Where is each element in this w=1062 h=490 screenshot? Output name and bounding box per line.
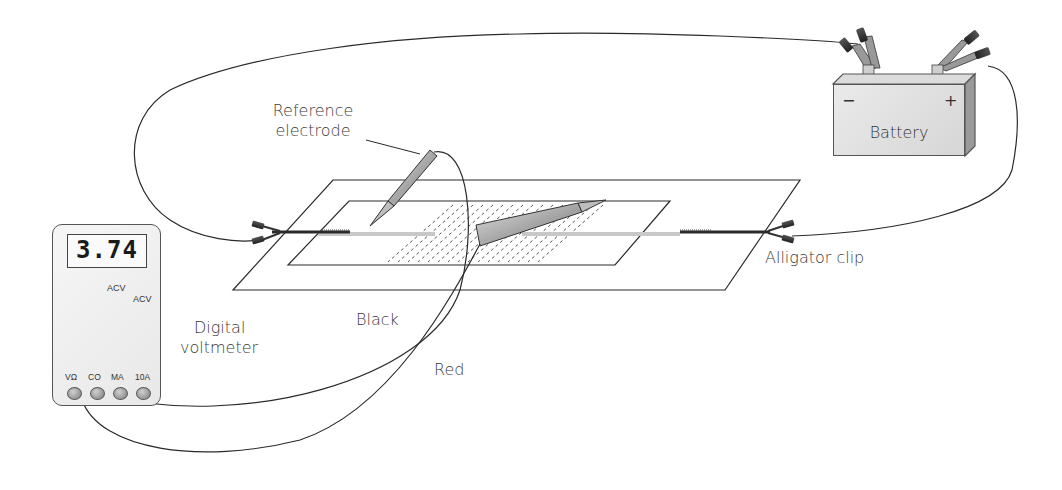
battery-positive-sign: + [944,91,957,110]
port-jack-ma [113,387,128,400]
voltmeter-display: 3.74 [67,234,147,268]
digital-voltmeter-label-line2: voltmeter [180,338,258,358]
port-jack-10a [136,387,151,400]
port-label-vohm: VΩ [65,372,77,382]
battery-negative-sign: − [842,91,855,110]
port-label-10a: 10A [135,372,150,382]
right-alligator-clip-icon [768,220,795,244]
dial-label-acv-1: ACV [107,283,126,293]
black-lead-label: Black [356,310,399,330]
port-label-ma: MA [111,372,124,382]
digital-voltmeter: 3.74 ACV ACV VΩ CO MA 10A [52,224,161,406]
reference-electrode-label-line1: Reference [258,101,368,121]
battery-top-face [833,74,975,84]
port-label-co: CO [88,372,101,382]
reference-electrode-leader [366,140,420,154]
alligator-clip-label: Alligator clip [765,248,864,268]
battery: − + Battery [833,84,965,156]
port-jack-co [90,387,105,400]
digital-voltmeter-label: Digital voltmeter [180,318,258,358]
red-lead-label: Red [434,360,464,380]
battery-negative-clips-icon [838,27,880,75]
dial-label-acv-2: ACV [133,294,152,304]
battery-positive-clips-icon [932,29,991,75]
battery-label: Battery [834,123,964,142]
equipotential-apparatus-diagram: 3.74 ACV ACV VΩ CO MA 10A − + Battery Re… [0,0,1062,490]
reference-electrode-label: Reference electrode [258,101,368,141]
digital-voltmeter-label-line1: Digital [180,318,258,338]
battery-side-face [965,74,975,156]
reference-electrode-label-line2: electrode [258,121,368,141]
port-jack-vohm [67,387,82,400]
